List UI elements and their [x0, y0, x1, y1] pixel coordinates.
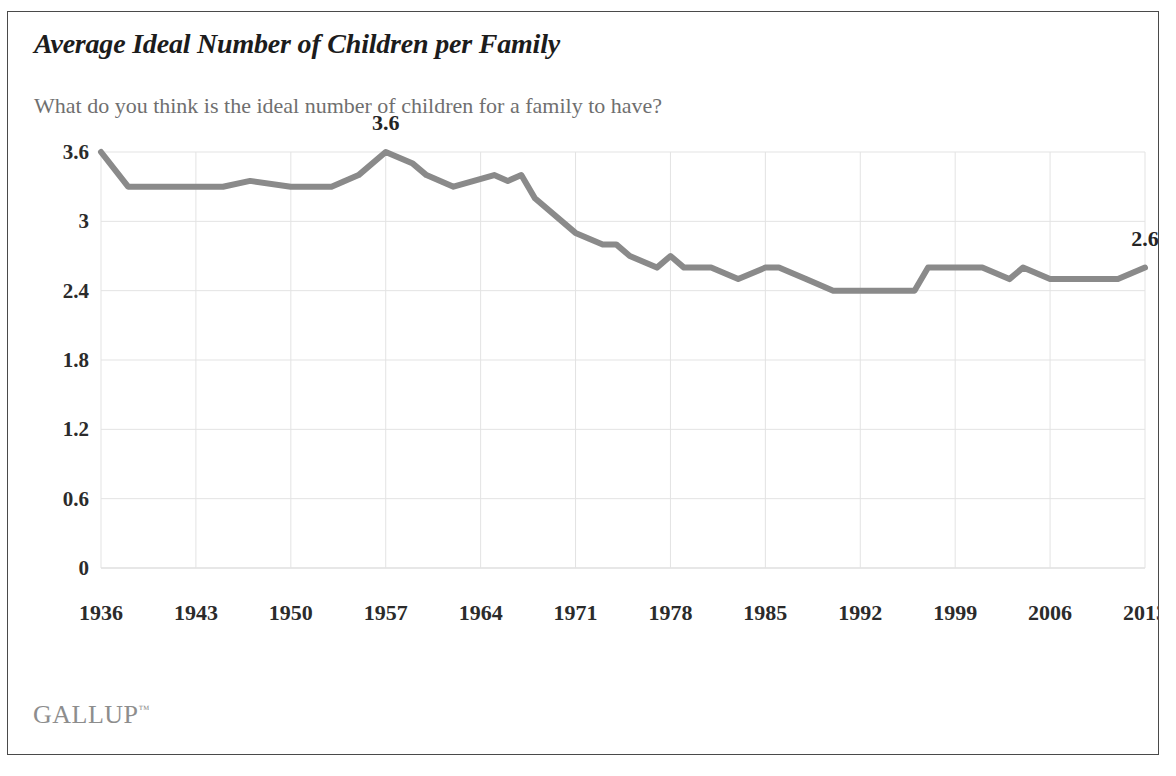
y-axis-tick: 1.8: [25, 348, 89, 373]
x-axis-tick: 1999: [933, 600, 977, 626]
x-axis-tick: 1992: [838, 600, 882, 626]
y-axis-tick: 3: [25, 209, 89, 234]
x-axis-tick: 1943: [174, 600, 218, 626]
gallup-logo: GALLUP™: [33, 700, 150, 730]
line-chart-svg: [8, 12, 1159, 755]
x-axis-tick: 1964: [459, 600, 503, 626]
x-axis-tick: 1936: [79, 600, 123, 626]
x-axis-tick: 1950: [269, 600, 313, 626]
x-axis-tick: 1971: [554, 600, 598, 626]
x-axis-tick: 1985: [743, 600, 787, 626]
x-axis-tick: 2013: [1123, 600, 1159, 626]
grid-lines: [101, 152, 1145, 568]
y-axis-tick: 3.6: [25, 140, 89, 165]
gallup-chart-card: Average Ideal Number of Children per Fam…: [7, 11, 1159, 755]
y-axis-tick: 1.2: [25, 417, 89, 442]
data-point-label: 2.6: [1131, 226, 1159, 252]
y-axis-tick: 2.4: [25, 278, 89, 303]
gallup-wordmark: GALLUP: [33, 700, 139, 729]
trademark-icon: ™: [139, 703, 150, 715]
y-axis-tick: 0: [25, 556, 89, 581]
y-axis-tick: 0.6: [25, 486, 89, 511]
chart-plot-area: 00.61.21.82.433.6 1936194319501957196419…: [8, 12, 1159, 755]
data-point-label: 3.6: [372, 110, 400, 136]
x-axis-tick: 1957: [364, 600, 408, 626]
x-axis-tick: 2006: [1028, 600, 1072, 626]
x-axis-tick: 1978: [648, 600, 692, 626]
